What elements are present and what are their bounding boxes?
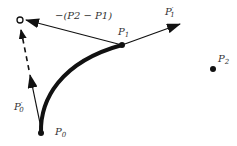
point-p2	[210, 66, 216, 72]
p2-label: P2	[217, 53, 230, 66]
p1-label: P1	[117, 26, 129, 39]
diagram-canvas: −(P2 − P1) P1 P′1 P2 P′0 P0	[0, 0, 237, 146]
tangent-p0-arrow	[30, 75, 41, 128]
diagram-svg: −(P2 − P1) P1 P′1 P2 P′0 P0	[0, 0, 237, 146]
neg-diff-arrow	[26, 20, 122, 45]
p1-tangent-label: P′1	[164, 6, 175, 19]
point-p1	[119, 42, 125, 48]
dashed-extension	[21, 30, 29, 70]
tangent-p1-arrow	[122, 24, 180, 45]
p0-label: P0	[54, 126, 67, 139]
virtual-point	[17, 17, 23, 23]
hermite-curve	[41, 45, 122, 133]
point-p0	[38, 130, 44, 136]
p0-tangent-label: P′0	[13, 101, 24, 114]
neg-diff-label: −(P2 − P1)	[55, 10, 112, 21]
